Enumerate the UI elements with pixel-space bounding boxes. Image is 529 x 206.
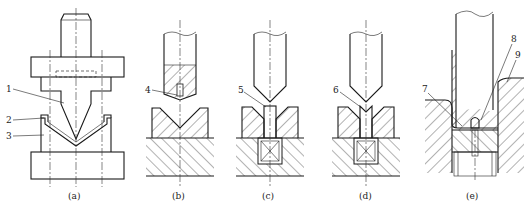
label-8: 8	[511, 34, 517, 44]
label-1: 1	[6, 84, 12, 94]
panel-b: 4 (b)	[145, 20, 214, 201]
caption-c: (c)	[262, 191, 274, 201]
label-3: 3	[6, 131, 12, 141]
press-brake-dies-diagram: 1 2 3 (a) 4 (b)	[0, 0, 529, 206]
panel-a: 1 2 3 (a)	[6, 8, 124, 201]
label-4: 4	[145, 85, 151, 95]
label-2: 2	[6, 115, 12, 125]
caption-e: (e)	[466, 191, 478, 201]
label-5: 5	[238, 85, 244, 95]
label-9: 9	[515, 50, 521, 60]
caption-b: (b)	[172, 191, 185, 201]
panel-e: 7 8 9 (e)	[422, 11, 524, 201]
panel-d: 6 (d)	[332, 20, 400, 201]
label-6: 6	[333, 85, 339, 95]
label-7: 7	[422, 84, 428, 94]
caption-a: (a)	[68, 191, 80, 201]
caption-d: (d)	[359, 191, 372, 201]
panel-c: 5 (c)	[236, 20, 304, 201]
